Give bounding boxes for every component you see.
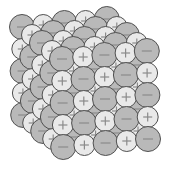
ionic-lattice-diagram (0, 0, 169, 172)
cation (73, 47, 94, 68)
anion (51, 135, 76, 160)
cation (116, 87, 137, 108)
cation (115, 43, 136, 64)
cation (94, 67, 115, 88)
cation (52, 71, 73, 92)
anion (113, 63, 138, 88)
anion (92, 43, 117, 68)
cation (116, 131, 137, 152)
anion (50, 91, 75, 116)
cation (73, 91, 94, 112)
anion (50, 47, 75, 72)
anion (93, 87, 118, 112)
cation (137, 107, 158, 128)
anion (134, 39, 159, 64)
cation (74, 135, 95, 156)
anion (93, 131, 118, 156)
anion (71, 67, 96, 92)
cation (95, 111, 116, 132)
anion (136, 127, 161, 152)
cation (52, 115, 73, 136)
anion (114, 107, 139, 132)
anion (135, 83, 160, 108)
anion (72, 111, 97, 136)
cation (137, 63, 158, 84)
